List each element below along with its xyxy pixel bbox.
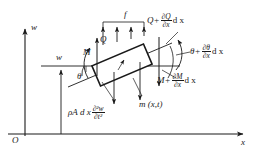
moment-right-dx: d x xyxy=(185,75,196,85)
distributed-force-label: f xyxy=(124,10,127,19)
inertia-force-label: ρA d x∂²w∂t² xyxy=(68,105,106,122)
distributed-load-f xyxy=(103,22,144,45)
shear-right-dx: d x xyxy=(173,15,184,25)
beam-element-free-body-diagram: w x O w θ M Q f m (x,t) Q+∂Q∂xd x θ+∂θ∂x… xyxy=(0,0,261,152)
inertia-numerator: ∂²w xyxy=(92,105,105,113)
inertia-base: ρA d x xyxy=(68,107,91,117)
Q-right-leader xyxy=(166,32,178,44)
inertia-fraction: ∂²w∂t² xyxy=(92,105,105,122)
m-leader xyxy=(133,78,142,96)
theta-angle-arc xyxy=(82,66,84,76)
rotation-right-label: θ+∂θ∂xd x xyxy=(190,44,223,61)
moment-left-label: M xyxy=(83,48,91,57)
rotation-right-fraction: ∂θ∂x xyxy=(202,44,211,61)
inertia-leader xyxy=(102,82,114,100)
rotation-right-base: θ+ xyxy=(190,46,201,56)
shear-right-fraction: ∂Q∂x xyxy=(161,13,172,30)
diagram-canvas xyxy=(0,0,261,152)
f-bracket xyxy=(103,22,144,28)
rotation-right-dx: d x xyxy=(212,46,223,56)
moment-right-numerator: ∂M xyxy=(172,73,184,81)
origin-label: O xyxy=(12,136,19,145)
rotation-right-numerator: ∂θ xyxy=(202,44,211,52)
shear-right-denominator: ∂x xyxy=(161,20,172,29)
shear-right-label: Q+∂Q∂xd x xyxy=(147,13,184,30)
shear-left-label: Q xyxy=(100,35,107,44)
deflection-label: w xyxy=(56,53,62,62)
rotation-right-denominator: ∂x xyxy=(202,51,211,60)
x-axis-label: x xyxy=(241,138,245,147)
element-body xyxy=(92,44,152,86)
distributed-moment-label: m (x,t) xyxy=(139,100,163,109)
shear-right-numerator: ∂Q xyxy=(161,13,172,21)
w-axis-label: w xyxy=(31,23,37,32)
moment-right-label: M+∂M∂xd x xyxy=(157,73,196,90)
inertia-denominator: ∂t² xyxy=(92,112,105,121)
shear-right-base: Q+ xyxy=(147,15,160,25)
moment-right-denominator: ∂x xyxy=(172,80,184,89)
moment-right-fraction: ∂M∂x xyxy=(172,73,184,90)
rotation-label: θ xyxy=(77,72,81,81)
theta-right-leader xyxy=(176,52,190,55)
moment-right-base: M+ xyxy=(157,75,171,85)
beam-element-rectangle xyxy=(92,44,152,86)
